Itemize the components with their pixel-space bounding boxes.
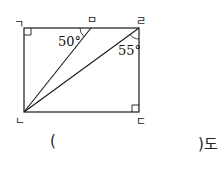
answer-close-paren: )도 (198, 132, 218, 153)
vertex-label-top-right: ㄹ (136, 15, 146, 28)
geometry-diagram: ㄱ ㅁ ㄹ ㄴ ㄷ 50° 55° (0, 0, 220, 175)
vertex-label-m: ㅁ (87, 14, 97, 27)
right-angle-mark-top-left (24, 28, 31, 35)
angle-label-50: 50° (58, 34, 81, 49)
answer-open-paren: ( (50, 132, 56, 150)
angle-label-55: 55° (118, 43, 141, 58)
vertex-label-top-left: ㄱ (14, 18, 24, 31)
vertex-label-bottom-left: ㄴ (15, 115, 25, 128)
angle-arc-r (130, 35, 139, 40)
angle-arc-n (37, 100, 41, 103)
vertex-label-bottom-right: ㄷ (136, 115, 146, 128)
right-angle-mark-bottom-right (132, 105, 139, 112)
